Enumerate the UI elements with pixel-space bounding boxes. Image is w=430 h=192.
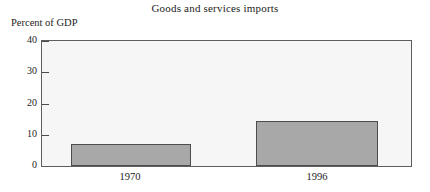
y-tick-label-10: 10 xyxy=(13,129,37,139)
plot-area xyxy=(41,40,412,167)
y-tick-label-20: 20 xyxy=(13,98,37,108)
y-tick-mark-40 xyxy=(42,41,49,42)
y-tick-mark-20 xyxy=(42,104,49,105)
y-tick-mark-30 xyxy=(42,72,49,73)
bar-1970 xyxy=(71,144,191,166)
y-axis-tick-labels: 40 30 20 10 0 xyxy=(8,40,37,167)
chart-figure: Goods and services imports Percent of GD… xyxy=(0,0,430,192)
y-tick-label-30: 30 xyxy=(13,66,37,76)
x-tick-label-1970: 1970 xyxy=(100,171,160,182)
x-tick-label-1996: 1996 xyxy=(287,171,347,182)
y-axis-label: Percent of GDP xyxy=(11,17,78,28)
y-tick-label-0: 0 xyxy=(13,160,37,170)
y-tick-mark-10 xyxy=(42,135,49,136)
y-tick-label-40: 40 xyxy=(13,35,37,45)
bar-1996 xyxy=(256,121,378,166)
chart-title: Goods and services imports xyxy=(0,2,430,14)
